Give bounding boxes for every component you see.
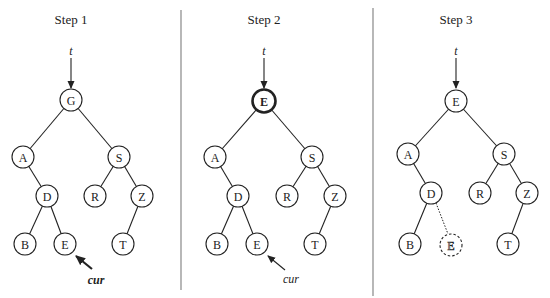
svg-text:R: R	[476, 187, 484, 201]
bst-deletion-diagram: Step 1 t G A S D R Z B E T cur Step 2 t	[0, 0, 550, 298]
tree-node-z: Z	[324, 185, 346, 207]
svg-text:E: E	[61, 238, 68, 252]
cur-pointer-label: cur	[88, 273, 105, 287]
root-pointer-label: t	[69, 44, 73, 58]
svg-text:S: S	[501, 148, 508, 162]
svg-text:E: E	[452, 95, 459, 109]
tree-node-s: S	[301, 146, 323, 168]
tree-node-d: D	[227, 185, 249, 207]
panel-title: Step 3	[440, 12, 473, 27]
tree-node-r: R	[84, 185, 106, 207]
tree-node-b: B	[14, 233, 36, 255]
svg-text:B: B	[406, 238, 414, 252]
svg-text:A: A	[19, 151, 28, 165]
tree-node-root: E	[445, 90, 467, 112]
svg-text:E: E	[260, 95, 268, 109]
svg-text:G: G	[67, 94, 76, 108]
removed-edge	[436, 203, 448, 234]
panel-title: Step 1	[55, 12, 88, 27]
svg-text:A: A	[404, 148, 413, 162]
svg-text:B: B	[213, 238, 221, 252]
svg-text:R: R	[283, 190, 291, 204]
cur-pointer-label: cur	[283, 272, 299, 286]
svg-text:E: E	[253, 238, 260, 252]
tree-node-a: A	[204, 146, 226, 168]
tree-node-t: T	[497, 233, 519, 255]
panel-step-2: Step 2 t E A S D R Z B E T cur	[204, 12, 346, 286]
tree-node-z: Z	[131, 185, 153, 207]
root-pointer-label: t	[454, 44, 458, 58]
panel-step-1: Step 1 t G A S D R Z B E T cur	[12, 12, 153, 287]
tree-node-e-removed: E	[440, 234, 462, 256]
tree-node-d: D	[420, 182, 442, 204]
cur-pointer-arrow	[268, 256, 285, 270]
tree-node-b: B	[206, 233, 228, 255]
tree-node-e: E	[246, 233, 268, 255]
svg-text:Z: Z	[138, 190, 145, 204]
svg-text:T: T	[119, 238, 127, 252]
svg-text:D: D	[234, 190, 243, 204]
tree-node-a: A	[397, 143, 419, 165]
tree-node-z: Z	[516, 182, 538, 204]
tree-node-root: G	[60, 89, 82, 111]
tree-node-b: B	[399, 233, 421, 255]
root-pointer-label: t	[262, 44, 266, 58]
svg-text:D: D	[43, 190, 52, 204]
tree-node-s: S	[108, 146, 130, 168]
tree-node-r: R	[276, 185, 298, 207]
tree-node-root-highlighted: E	[253, 90, 276, 113]
svg-text:T: T	[504, 238, 512, 252]
svg-text:A: A	[211, 151, 220, 165]
tree-node-s: S	[493, 143, 515, 165]
tree-node-t: T	[304, 233, 326, 255]
tree-node-t: T	[112, 233, 134, 255]
tree-node-d: D	[36, 185, 58, 207]
svg-text:Z: Z	[331, 190, 338, 204]
panel-title: Step 2	[248, 12, 281, 27]
tree-node-e: E	[54, 233, 76, 255]
tree-node-r: R	[469, 182, 491, 204]
svg-text:D: D	[427, 187, 436, 201]
svg-text:B: B	[21, 238, 29, 252]
svg-text:S: S	[309, 151, 316, 165]
svg-text:S: S	[116, 151, 123, 165]
cur-pointer-arrow	[76, 256, 92, 269]
tree-node-a: A	[12, 146, 34, 168]
svg-text:R: R	[91, 190, 99, 204]
svg-text:E: E	[447, 239, 454, 253]
panel-step-3: Step 3 t E A S D R Z B E T	[397, 12, 538, 256]
svg-text:Z: Z	[523, 187, 530, 201]
svg-text:T: T	[311, 238, 319, 252]
